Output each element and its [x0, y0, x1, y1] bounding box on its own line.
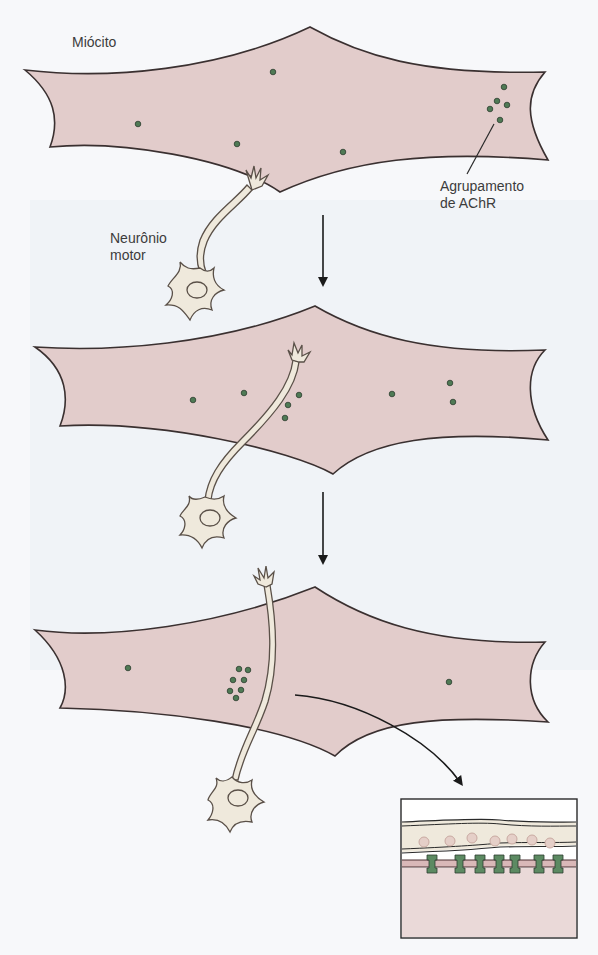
- achr-cluster-label-line1: Agrupamento: [440, 178, 524, 195]
- stage-2: [35, 306, 548, 548]
- myocyte-3: [35, 587, 548, 756]
- stage-1: [25, 27, 548, 320]
- motor-neuron-label-line1: Neurônio: [110, 230, 167, 247]
- myocyte-label: Miócito: [72, 34, 116, 51]
- junction-inset: [401, 799, 577, 938]
- diagram-canvas: [0, 0, 598, 955]
- motor-neuron-label-line2: motor: [110, 247, 167, 264]
- motor-neuron-1: [166, 166, 268, 320]
- achr-cluster-label-line2: de AChR: [440, 195, 524, 212]
- motor-neuron-label: Neurônio motor: [110, 230, 167, 264]
- stage-3: [35, 566, 548, 832]
- achr-cluster-label: Agrupamento de AChR: [440, 178, 524, 212]
- myocyte-1: [25, 27, 548, 192]
- myocyte-2: [35, 306, 548, 474]
